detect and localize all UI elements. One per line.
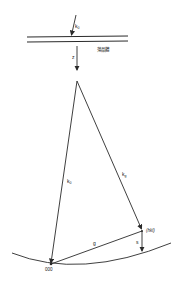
g-vector: [51, 231, 142, 264]
s-label: s: [136, 240, 139, 245]
incident-beam-label: k0: [75, 24, 79, 31]
diagram-canvas: [0, 0, 183, 290]
crystal-top-line: [27, 36, 128, 37]
origin-label: 000: [45, 268, 53, 273]
k0-vector: [51, 81, 77, 263]
kg-label: kg: [122, 172, 126, 179]
k0-subscript: 0: [70, 181, 72, 185]
z-axis-label: z: [72, 55, 75, 60]
k-subscript: 0: [78, 26, 80, 30]
g-label: g: [93, 241, 96, 246]
ewald-diagram: k0 薄晶體 z k0 kg g s 000 (hkl): [0, 0, 183, 290]
ewald-sphere-arc: [12, 243, 171, 264]
crystal-bottom-line: [27, 41, 128, 42]
hkl-point: [141, 230, 143, 232]
kg-subscript: g: [125, 174, 127, 178]
k0-label: k0: [67, 179, 71, 186]
origin-point: [50, 263, 53, 266]
kg-vector: [77, 81, 142, 229]
hkl-label: (hkl): [146, 229, 155, 234]
crystal-label: 薄晶體: [97, 48, 109, 53]
